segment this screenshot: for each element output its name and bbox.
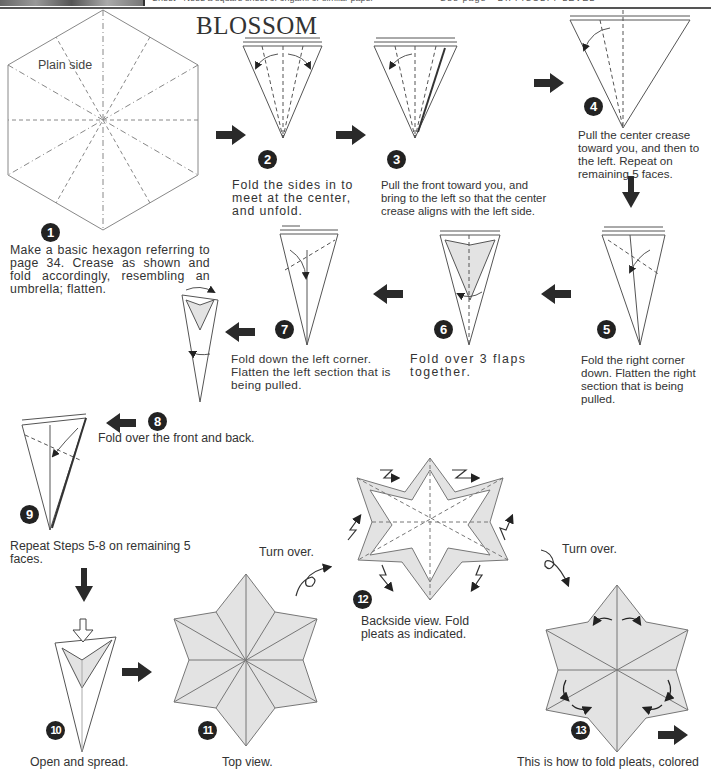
step-number-9: 9 xyxy=(20,505,39,524)
step4-caption: Pull the center crease toward you, and t… xyxy=(578,128,711,180)
left-arrow-icon xyxy=(225,322,255,342)
step-number-11: 11 xyxy=(198,721,217,740)
step-number-10: 10 xyxy=(46,721,65,740)
step-number-6: 6 xyxy=(434,320,453,339)
step8-diagram xyxy=(182,287,218,402)
step-number-1: 1 xyxy=(41,223,60,242)
step-number-4: 4 xyxy=(584,97,603,116)
step12-backside xyxy=(357,458,508,600)
step-number-13: 13 xyxy=(571,721,590,740)
turn-over-icon-1 xyxy=(296,567,330,596)
right-arrow-icon xyxy=(534,73,564,93)
step12-turn-over-note: Turn over. xyxy=(562,543,642,556)
step-number-12: 12 xyxy=(353,590,372,609)
step2-caption: Fold the sides in to meet at the center,… xyxy=(232,179,367,218)
step11-star xyxy=(174,574,317,746)
left-arrow-icon xyxy=(541,284,571,304)
down-arrow-icon xyxy=(75,568,93,602)
right-arrow-icon xyxy=(658,725,688,745)
step5-caption: Fold the right corner down. Flatten the … xyxy=(581,353,711,405)
step11-caption: Top view. xyxy=(222,756,302,769)
down-arrow-icon xyxy=(622,176,640,208)
step-number-3: 3 xyxy=(387,150,406,169)
right-arrow-icon xyxy=(336,125,366,145)
step11-turn-over-note: Turn over. xyxy=(259,546,339,559)
step13-caption: This is how to fold pleats, colored xyxy=(517,756,711,769)
step1-hexagon xyxy=(8,10,198,230)
step10-caption: Open and spread. xyxy=(30,756,140,769)
step-number-5: 5 xyxy=(597,320,616,339)
plain-side-label: Plain side xyxy=(38,58,92,72)
step-number-8: 8 xyxy=(148,412,167,431)
step9-caption: Repeat Steps 5-8 on remaining 5 faces. xyxy=(10,540,210,566)
step8-caption: Fold over the front and back. xyxy=(98,432,288,445)
step3-caption: Pull the front toward you, and bring to … xyxy=(381,179,551,218)
step2-diagram xyxy=(243,38,322,138)
step1-caption: Make a basic hexagon referring to page 3… xyxy=(10,244,210,296)
step6-caption: Fold over 3 flaps together. xyxy=(410,353,535,379)
step13-flower xyxy=(546,585,688,752)
left-arrow-icon xyxy=(106,413,136,433)
step-number-7: 7 xyxy=(275,320,294,339)
step12-caption: Backside view. Fold pleats as indicated. xyxy=(361,615,501,641)
left-arrow-icon xyxy=(373,284,403,304)
step3-diagram xyxy=(374,38,457,138)
right-arrow-icon xyxy=(216,125,246,145)
step7-caption: Fold down the left corner. Flatten the l… xyxy=(231,353,401,392)
step-number-2: 2 xyxy=(258,150,277,169)
right-arrow-icon xyxy=(122,662,152,682)
